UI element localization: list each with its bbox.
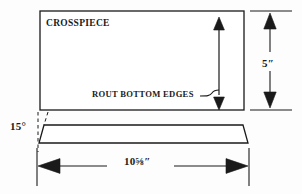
height-arrowhead-top: [264, 13, 276, 29]
diagram-canvas: CROSSPIECE ROUT BOTTOM EDGES 5″ 15° 10⅝″: [0, 0, 302, 194]
length-arrowhead-left: [38, 159, 60, 174]
crosspiece-edge-trapezoid: [39, 125, 248, 143]
bevel-angle-label: 15°: [10, 120, 26, 132]
bevel-slope-extension-dashed: [44, 112, 48, 125]
length-dimension: [37, 148, 249, 186]
length-arrowhead-right: [226, 159, 248, 174]
crosspiece-title-label: CROSSPIECE: [46, 18, 110, 28]
rout-bottom-edges-label: ROUT BOTTOM EDGES: [92, 89, 194, 99]
length-dimension-label: 10⅝″: [124, 155, 151, 167]
height-dimension-label: 5″: [262, 57, 274, 69]
height-arrowhead-bottom: [264, 92, 276, 108]
